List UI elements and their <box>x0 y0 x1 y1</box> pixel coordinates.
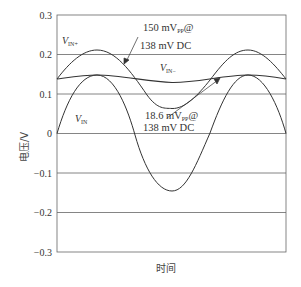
y-axis-label: 电压/V <box>16 132 31 162</box>
y-tick: −0.1 <box>34 168 52 179</box>
annotation-2-line1: 18.6 mVPP@ <box>145 110 198 122</box>
y-tick-labels: 0.3 0.2 0.1 0 −0.1 −0.2 −0.3 <box>34 10 52 258</box>
annotation-2-line2: 138 mV DC <box>143 122 194 133</box>
x-axis-label: 时间 <box>156 260 176 275</box>
y-tick: 0.1 <box>40 89 53 100</box>
vin-curve <box>57 75 286 191</box>
y-tick: 0.2 <box>40 49 53 60</box>
vin-minus-label: VIN− <box>160 62 176 74</box>
annotation-arrow-1 <box>124 37 138 64</box>
vin-label: VIN <box>75 113 88 125</box>
grid-lines <box>57 55 286 213</box>
y-tick: −0.3 <box>34 247 52 258</box>
y-tick: 0.3 <box>40 10 53 21</box>
vin-plus-label: VIN+ <box>62 35 78 47</box>
y-tick: 0 <box>47 128 52 139</box>
chart-svg: 0.3 0.2 0.1 0 −0.1 −0.2 −0.3 VIN+ VIN− V… <box>0 0 301 287</box>
annotation-1-line2: 138 mV DC <box>140 40 191 51</box>
y-tick: −0.2 <box>34 207 52 218</box>
annotation-1-line1: 150 mVPP@ <box>143 22 194 34</box>
vin-plus-curve <box>57 50 286 109</box>
